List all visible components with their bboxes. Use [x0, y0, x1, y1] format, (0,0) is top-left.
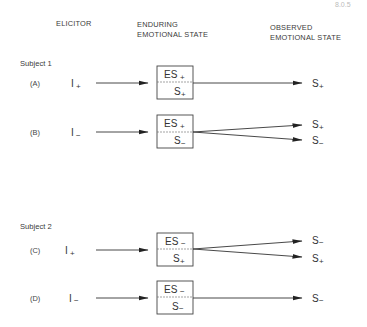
box-top-sign: −	[180, 287, 185, 296]
box-top-label: ES	[164, 284, 178, 295]
corner-text: 8.0.5	[335, 1, 351, 8]
header-observed-1: OBSERVED	[270, 23, 313, 32]
box-bottom-sign: −	[179, 304, 184, 313]
outcome-sign: +	[319, 257, 324, 266]
outcome-sign: −	[319, 238, 324, 247]
box-top-sign: +	[180, 73, 185, 82]
elicitor-sign: +	[70, 249, 75, 258]
elicitor-sign: −	[76, 131, 81, 140]
arrow-to-outcome-1	[193, 241, 302, 249]
box-bottom-sign: −	[181, 139, 186, 148]
outcome-label: S	[312, 235, 319, 246]
box-bottom-sign: +	[180, 257, 185, 266]
outcome-label: S	[312, 119, 319, 130]
header-enduring-1: ENDURING	[137, 20, 178, 29]
row-b: (B) I − ES + S − S + S −	[30, 115, 324, 148]
box-bottom-label: S	[172, 301, 179, 312]
header-enduring-2: EMOTIONAL STATE	[137, 30, 208, 39]
outcome-label: S	[312, 135, 319, 146]
elicitor-symbol: I	[69, 293, 72, 304]
elicitor-symbol: I	[65, 245, 68, 256]
outcome-sign: +	[319, 82, 324, 91]
arrow-to-outcome-2	[193, 132, 302, 140]
row-d: (D) I − ES − S − S −	[30, 281, 324, 314]
arrow-to-outcome-1	[193, 125, 302, 132]
case-label: (D)	[30, 294, 40, 303]
elicitor-sign: +	[76, 82, 81, 91]
box-bottom-label: S	[174, 135, 181, 146]
subject-1-label: Subject 1	[20, 59, 52, 68]
box-bottom-sign: +	[181, 90, 186, 99]
subject-2-label: Subject 2	[20, 222, 52, 231]
row-c: (C) I + ES − S + S − S +	[30, 233, 324, 266]
case-label: (A)	[30, 79, 40, 88]
elicitor-symbol: I	[71, 78, 74, 89]
box-top-label: ES	[164, 69, 178, 80]
box-bottom-label: S	[173, 253, 180, 264]
row-a: (A) I + ES + S + S +	[30, 66, 324, 99]
case-label: (C)	[30, 246, 40, 255]
arrow-to-outcome-2	[193, 249, 302, 257]
header-elicitor: ELICITOR	[56, 19, 92, 28]
emotional-state-diagram: 8.0.5 ELICITOR ENDURING EMOTIONAL STATE …	[0, 0, 367, 327]
box-bottom-label: S	[174, 86, 181, 97]
elicitor-sign: −	[74, 296, 79, 305]
outcome-label: S	[312, 253, 319, 264]
box-top-label: ES	[164, 118, 178, 129]
outcome-label: S	[312, 78, 319, 89]
box-top-sign: −	[181, 239, 186, 248]
box-top-label: ES	[165, 236, 179, 247]
elicitor-symbol: I	[71, 127, 74, 138]
case-label: (B)	[30, 128, 40, 137]
header-observed-2: EMOTIONAL STATE	[270, 33, 341, 42]
box-top-sign: +	[180, 122, 185, 131]
outcome-label: S	[312, 293, 319, 304]
outcome-sign: +	[319, 123, 324, 132]
outcome-sign: −	[319, 139, 324, 148]
outcome-sign: −	[319, 296, 324, 305]
